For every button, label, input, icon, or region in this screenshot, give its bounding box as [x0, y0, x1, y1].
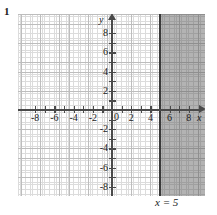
- graph-figure: 1: [0, 0, 217, 215]
- x-tick: [83, 106, 84, 113]
- y-tick-label: 8: [88, 28, 108, 38]
- y-axis: [111, 18, 113, 196]
- y-tick: [109, 91, 116, 92]
- x-tick: [45, 106, 46, 113]
- y-tick-label: -6: [88, 163, 108, 173]
- y-tick-label: -2: [88, 124, 108, 134]
- origin-label: 0: [114, 112, 119, 122]
- equation-caption: x = 5: [155, 197, 178, 208]
- problem-number: 1: [4, 6, 10, 17]
- y-tick-label: -8: [88, 182, 108, 192]
- y-tick: [109, 129, 116, 130]
- y-tick-label: 6: [88, 47, 108, 57]
- x-tick-label: -2: [82, 113, 104, 123]
- x-tick: [141, 106, 142, 113]
- y-tick: [109, 177, 116, 178]
- y-tick: [109, 139, 116, 140]
- x-axis-label: x: [197, 113, 201, 123]
- y-tick-label: 4: [88, 67, 108, 77]
- y-tick: [109, 187, 116, 188]
- boundary-line-x-equals-5: [159, 14, 161, 196]
- x-tick: [64, 106, 65, 113]
- y-axis-arrow-icon: [108, 14, 116, 20]
- y-tick: [109, 81, 116, 82]
- coordinate-plane: -8 -6 -4 -2 2 4 6 8 8 6 4 2 -2 -4 -6 -8 …: [18, 14, 205, 196]
- x-tick: [179, 106, 180, 113]
- x-tick: [122, 106, 123, 113]
- y-tick-label: -4: [88, 143, 108, 153]
- y-tick: [109, 100, 116, 101]
- y-tick: [109, 33, 116, 34]
- y-tick: [109, 43, 116, 44]
- x-tick: [102, 106, 103, 113]
- y-axis-label: y: [99, 15, 103, 25]
- y-tick: [109, 62, 116, 63]
- y-tick: [109, 148, 116, 149]
- y-tick: [109, 72, 116, 73]
- y-tick: [109, 168, 116, 169]
- y-tick: [109, 158, 116, 159]
- y-tick-label: 2: [88, 86, 108, 96]
- y-tick: [109, 52, 116, 53]
